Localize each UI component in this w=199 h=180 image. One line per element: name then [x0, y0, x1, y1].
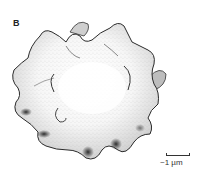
spiky-particle-illustration: [0, 0, 199, 180]
scale-bar-label: ~1 µm: [160, 158, 183, 167]
scale-bar: [166, 155, 190, 156]
